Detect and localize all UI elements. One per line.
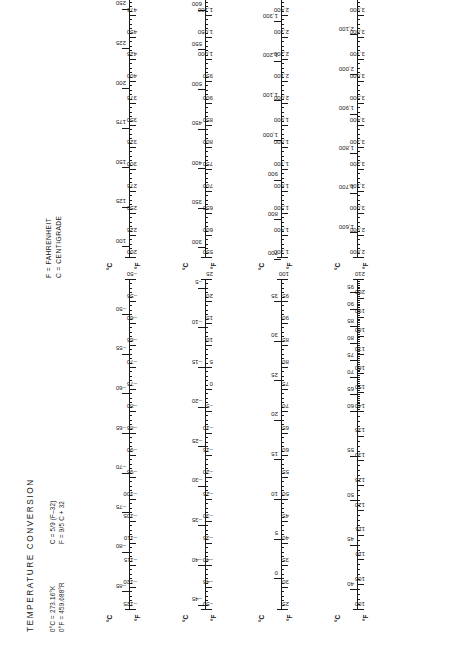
tick-minor-f (357, 520, 360, 521)
tick-major-f (129, 15, 136, 16)
tick-major-f (205, 565, 212, 566)
tick-minor-f (205, 464, 208, 465)
axis-caption-celsius: °C (258, 615, 265, 622)
tick-label-celsius: –50 (116, 306, 126, 313)
tick-minor-f (205, 156, 208, 157)
tick-minor-f (281, 349, 284, 350)
tick-major-f (205, 125, 212, 126)
tick-major-c (350, 292, 357, 293)
tick-label-celsius: 400 (192, 160, 202, 167)
tick-minor-f (205, 420, 208, 421)
tick-minor-f (357, 305, 360, 306)
tick-label-celsius: –30 (192, 477, 202, 484)
tick-major-f (281, 521, 288, 522)
tick-major-c (198, 247, 205, 248)
tick-major-f (281, 565, 288, 566)
tick-major-f (281, 543, 288, 544)
tick-major-c (198, 486, 205, 487)
tick-minor-f (129, 195, 132, 196)
tick-major-f (129, 477, 136, 478)
tick-major-c (274, 140, 281, 141)
tick-label-fahrenheit: –85 (127, 425, 137, 432)
tick-minor-f (281, 107, 284, 108)
tick-major-c (122, 354, 129, 355)
tick-major-f (205, 477, 212, 478)
temperature-ruler: °C°F–125–120–115–110–105–100–95–90–85–80… (106, 280, 152, 610)
axis-caption-fahrenheit: °F (210, 263, 217, 269)
tick-major-f (205, 521, 212, 522)
tick-label-fahrenheit: 2,800 (350, 249, 365, 256)
tick-minor-f (129, 129, 132, 130)
constant-kelvin: 0°C = 273.16°K (49, 582, 58, 632)
tick-minor-f (205, 112, 208, 113)
tick-minor-f (281, 239, 284, 240)
tick-major-f (357, 411, 364, 412)
tick-major-c (350, 500, 357, 501)
tick-minor-f (129, 530, 132, 531)
tick-minor-f (129, 437, 132, 438)
tick-label-fahrenheit: –25 (203, 491, 213, 498)
tick-major-c (198, 168, 205, 169)
tick-minor-f (129, 508, 132, 509)
tick-label-fahrenheit: –40 (203, 557, 213, 564)
tick-major-f (281, 323, 288, 324)
tick-label-celsius: –65 (116, 425, 126, 432)
tick-label-fahrenheit: –80 (127, 403, 137, 410)
chart-sheet: TEMPERATURE CONVERSION 0°C = 273.16°K 0°… (0, 0, 466, 670)
tick-label-fahrenheit: 150 (355, 384, 365, 391)
tick-minor-f (357, 470, 360, 471)
tick-minor-f (357, 495, 360, 496)
tick-minor-f (205, 217, 208, 218)
tick-major-c (350, 309, 357, 310)
tick-minor-f (281, 459, 284, 460)
tick-label-celsius: 800 (268, 211, 278, 218)
tick-minor-f (357, 173, 360, 174)
tick-minor-f (357, 19, 360, 20)
tick-minor-f (129, 90, 132, 91)
tick-minor-f (357, 446, 360, 447)
tick-major-f (129, 411, 136, 412)
tick-label-fahrenheit: 550 (203, 249, 213, 256)
tick-minor-f (129, 486, 132, 487)
tick-minor-f (129, 354, 132, 355)
tick-label-fahrenheit: 100 (355, 601, 365, 608)
tick-minor-f (205, 178, 208, 179)
tick-label-celsius: –80 (116, 543, 126, 550)
tick-major-f (205, 213, 212, 214)
tick-minor-f (129, 503, 132, 504)
tick-minor-f (205, 173, 208, 174)
tick-major-c (274, 578, 281, 579)
tick-label-celsius: 1,800 (339, 145, 354, 152)
tick-label-fahrenheit: 55 (282, 469, 289, 476)
tick-major-f (357, 436, 364, 437)
tick-major-f (357, 298, 364, 299)
tick-major-f (129, 565, 136, 566)
tick-major-f (281, 37, 288, 38)
tick-label-fahrenheit: 3,000 (350, 205, 365, 212)
tick-minor-f (129, 85, 132, 86)
ruler-end-cap (201, 257, 209, 258)
tick-major-c (198, 407, 205, 408)
tick-major-c (350, 394, 357, 395)
tick-minor-f (281, 508, 284, 509)
tick-major-c (274, 21, 281, 22)
axis-caption-celsius: °C (106, 263, 113, 270)
tick-major-f (357, 373, 364, 374)
tick-minor-f (129, 283, 132, 284)
tick-major-f (205, 37, 212, 38)
tick-label-celsius: 60 (347, 403, 354, 410)
tick-major-c (122, 552, 129, 553)
tick-label-fahrenheit: –10 (203, 425, 213, 432)
tick-label-fahrenheit: –70 (127, 359, 137, 366)
tick-minor-f (129, 107, 132, 108)
tick-label-celsius: –55 (116, 345, 126, 352)
tick-major-f (357, 317, 364, 318)
tick-label-fahrenheit: –5 (206, 403, 213, 410)
tick-label-celsius: 90 (347, 301, 354, 308)
tick-major-c (350, 456, 357, 457)
tick-minor-f (205, 46, 208, 47)
tick-label-celsius: 450 (192, 120, 202, 127)
tick-minor-f (357, 319, 360, 320)
tick-minor-f (205, 310, 208, 311)
tick-minor-f (281, 332, 284, 333)
